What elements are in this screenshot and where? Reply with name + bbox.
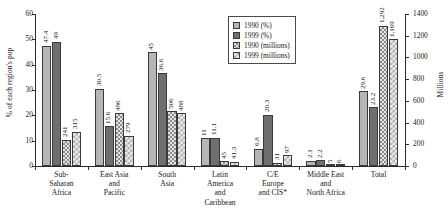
bar-value-label: 45	[220, 152, 228, 159]
x-category-label: Sub- Saharan Africa	[35, 170, 88, 198]
x-category-label: East Asia and Pacific	[88, 170, 141, 198]
bar-value-label: 29.6	[359, 76, 367, 88]
y-tick-right	[405, 144, 409, 145]
bar-value-label: 488	[177, 100, 185, 111]
y-tick-label-right: 0	[413, 161, 448, 170]
bar	[167, 111, 176, 166]
x-tick	[194, 166, 195, 170]
bar-value-label: 2.2	[316, 149, 324, 158]
y-tick-label-left: 10	[0, 136, 33, 145]
x-tick	[352, 166, 353, 170]
bar-value-label: 486	[114, 100, 122, 111]
bar	[210, 138, 219, 166]
bar-group: 47.449241315	[42, 14, 81, 166]
bar-value-label: 41.3	[230, 147, 238, 159]
bar-group: 29.623.21,2921,169	[359, 14, 398, 166]
bar-group: 2.12.256	[306, 14, 345, 166]
legend-swatch	[233, 52, 240, 59]
bar-value-label: 11.1	[210, 123, 218, 135]
y-tick-label-left: 50	[0, 34, 33, 43]
chart-legend: 1990 (%)1999 (%)1990 (millions)1999 (mil…	[228, 16, 296, 64]
chart-container: % of each region's pop Millions 01020304…	[0, 0, 448, 216]
bar-value-label: 15.6	[104, 112, 112, 124]
bar	[42, 46, 51, 166]
bar-value-label: 23.2	[369, 92, 377, 104]
y-axis-label-right: Millions	[436, 54, 445, 116]
bar	[273, 163, 282, 166]
y-tick-label-right: 200	[413, 139, 448, 148]
bar-value-label: 279	[124, 123, 132, 134]
y-tick-label-left: 40	[0, 60, 33, 69]
x-tick	[246, 166, 247, 170]
bar	[72, 132, 81, 166]
bar	[389, 39, 398, 166]
y-axis-left-line	[35, 14, 36, 166]
legend-label: 1990 (%)	[244, 21, 272, 30]
x-tick	[299, 166, 300, 170]
y-tick-right	[405, 101, 409, 102]
y-tick-label-left: 0	[0, 161, 33, 170]
bar-value-label: 506	[167, 98, 175, 109]
bar-value-label: 11	[200, 129, 208, 136]
bar-value-label: 241	[61, 127, 69, 138]
y-tick-label-right: 1000	[413, 52, 448, 61]
legend-item: 1999 (millions)	[233, 50, 290, 60]
y-tick-right	[405, 79, 409, 80]
bar	[230, 162, 239, 166]
x-category-label: Total	[352, 170, 405, 179]
x-tick	[88, 166, 89, 170]
bar-value-label: 2.1	[306, 149, 314, 158]
bar-value-label: 6	[335, 159, 343, 163]
legend-swatch	[233, 42, 240, 49]
bar	[263, 115, 272, 166]
legend-item: 1990 (millions)	[233, 40, 290, 50]
y-tick-label-left: 30	[0, 85, 33, 94]
bar-value-label: 5	[326, 159, 334, 163]
bar-value-label: 1,292	[378, 7, 386, 23]
legend-swatch	[233, 22, 240, 29]
legend-item: 1999 (%)	[233, 30, 290, 40]
bar-value-label: 6.8	[253, 138, 261, 147]
bar	[336, 164, 345, 166]
y-tick-right	[405, 123, 409, 124]
plot-area: 0102030405060 0200400600800100012001400 …	[35, 14, 405, 166]
bar-value-label: 97	[283, 146, 291, 153]
x-category-label: Latin America and Caribbean	[194, 170, 247, 207]
bar	[62, 140, 71, 166]
bar	[115, 113, 124, 166]
bar-value-label: 30.5	[95, 74, 103, 86]
y-tick-label-right: 400	[413, 118, 448, 127]
bar	[148, 52, 157, 166]
y-tick-label-right: 1400	[413, 9, 448, 18]
bar	[254, 149, 263, 166]
bar	[220, 161, 229, 166]
bar-value-label: 47.4	[42, 31, 50, 43]
x-tick	[141, 166, 142, 170]
bar-value-label: 45	[147, 43, 155, 50]
bar	[95, 89, 104, 166]
bar	[326, 164, 335, 166]
x-tick	[405, 166, 406, 170]
bar	[177, 113, 186, 166]
bar	[369, 107, 378, 166]
bar	[105, 126, 114, 166]
legend-swatch	[233, 32, 240, 39]
bar-group: 4536.6506488	[148, 14, 187, 166]
bar	[201, 138, 210, 166]
bar	[158, 73, 167, 166]
bar	[124, 136, 133, 166]
y-axis-label-left: % of each region's pop	[5, 48, 14, 118]
legend-label: 1999 (millions)	[244, 51, 290, 60]
y-axis-right-line	[405, 14, 406, 166]
legend-label: 1990 (millions)	[244, 41, 290, 50]
bar	[359, 91, 368, 166]
bar-value-label: 36.6	[157, 59, 165, 71]
y-tick-label-right: 1200	[413, 31, 448, 40]
x-category-label: South Asia	[141, 170, 194, 188]
x-axis-line	[35, 166, 405, 167]
y-tick-label-right: 800	[413, 74, 448, 83]
bar	[379, 26, 388, 166]
legend-item: 1990 (%)	[233, 20, 290, 30]
bar	[306, 161, 315, 166]
bar	[283, 155, 292, 166]
